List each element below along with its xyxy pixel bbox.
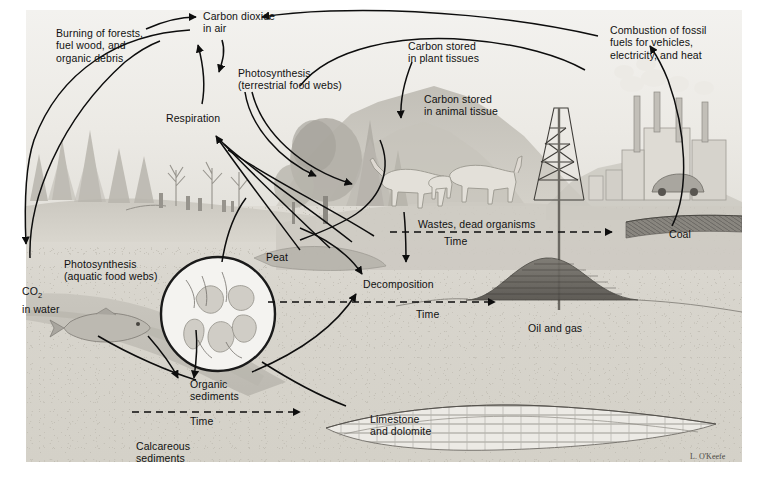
label-time-oil: Time	[416, 308, 439, 320]
label-carbon-stored-in-animal-tissue: Carbon stored in animal tissue	[424, 93, 534, 118]
arrow-peat-to-decomposition	[300, 228, 362, 274]
label-coal: Coal	[669, 228, 691, 240]
label-decomposition: Decomposition	[363, 278, 434, 290]
label-organic-sediments: Organic sediments	[190, 378, 280, 403]
arrow-coal-to-combustion	[650, 46, 684, 226]
label-co2-in-water: CO2in water	[22, 285, 60, 315]
co2-water-text-2: in water	[22, 303, 60, 315]
arrow-magnifier-connector	[222, 198, 246, 262]
label-peat: Peat	[266, 251, 288, 263]
co2-water-subscript: 2	[38, 291, 42, 300]
label-time-sediments: Time	[190, 415, 213, 427]
arrow-forest-to-burning-curve	[30, 41, 160, 258]
arrow-respiration-to-co2	[198, 45, 204, 104]
label-photosynthesis-terrestrial: Photosynthesis (terrestrial food webs)	[238, 67, 398, 92]
label-carbon-dioxide-in-air: Carbon dioxide in air	[203, 10, 313, 35]
label-burning-of-forests: Burning of forests, fuel wood, and organ…	[56, 27, 186, 64]
label-combustion-of-fossil-fuels: Combustion of fossil fuels for vehicles,…	[610, 24, 750, 61]
arrow-animals-to-wastes	[300, 140, 385, 240]
arrow-plankton-to-sediments	[194, 330, 197, 378]
arrow-aquatic-to-sediments-a	[98, 336, 196, 380]
label-oil-and-gas: Oil and gas	[528, 322, 582, 334]
label-limestone-and-dolomite: Limestone and dolomite	[370, 413, 470, 438]
arrow-organic-sediments-to-decomposition	[252, 294, 356, 372]
arrow-surface-to-subsurface	[404, 212, 406, 262]
carbon-cycle-figure: Burning of forests, fuel wood, and organ…	[0, 0, 759, 480]
artist-credit: L. O'Keefe	[690, 452, 725, 461]
label-photosynthesis-aquatic: Photosynthesis (aquatic food webs)	[64, 258, 214, 283]
label-wastes-dead-organisms: Wastes, dead organisms	[418, 218, 535, 230]
arrow-biota-to-respiration-d	[228, 150, 374, 236]
label-carbon-stored-in-plant-tissues: Carbon stored in plant tissues	[408, 40, 518, 65]
label-calcareous-sediments: Calcareous sediments	[136, 440, 236, 465]
co2-water-text: CO	[22, 285, 38, 297]
arrow-plant-to-animal	[401, 62, 412, 118]
label-time-wastes: Time	[444, 235, 467, 247]
label-respiration: Respiration	[166, 112, 220, 124]
arrow-co2-down	[219, 40, 224, 72]
